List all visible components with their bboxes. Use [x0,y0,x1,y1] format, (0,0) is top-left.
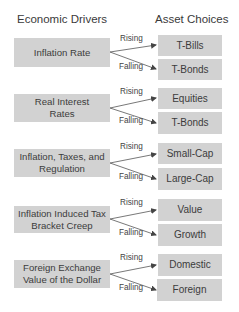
driver-box-tax-bracket-creep: Inflation Induced Tax Bracket Creep [14,206,110,233]
rising-arrow [110,45,156,52]
rising-arrow [110,154,156,163]
falling-label: Falling [119,283,143,292]
rising-arrow [110,265,156,274]
driver-box-inflation-rate: Inflation Rate [14,38,110,67]
asset-box-t-bonds: T-Bonds [158,59,222,80]
asset-box-value: Value [158,199,222,221]
asset-box-foreign: Foreign [157,279,222,301]
driver-label: Inflation, Taxes, and Regulation [17,151,107,175]
driver-label: Inflation Induced Tax Bracket Creep [15,208,109,232]
rising-label: Rising [120,34,143,43]
rising-label: Rising [120,198,143,207]
driver-label: Foreign Exchange Value of the Dollar [18,262,106,286]
asset-box-t-bonds: T-Bonds [158,112,222,134]
falling-label: Falling [119,228,143,237]
rising-label: Rising [120,253,143,262]
driver-box-foreign-exchange: Foreign Exchange Value of the Dollar [14,260,110,288]
asset-box-t-bills: T-Bills [158,35,222,56]
rising-label: Rising [120,142,143,151]
rising-arrow [110,98,156,108]
driver-label: Real Interest Rates [32,96,92,120]
falling-label: Falling [119,62,143,71]
asset-box-large-cap: Large-Cap [158,168,222,190]
asset-box-equities: Equities [158,88,222,109]
falling-label: Falling [119,116,143,125]
rising-arrow [110,210,156,219]
driver-box-real-interest-rates: Real Interest Rates [14,94,110,122]
asset-box-domestic: Domestic [158,254,222,276]
falling-label: Falling [119,172,143,181]
driver-box-inflation-taxes-regulation: Inflation, Taxes, and Regulation [14,149,110,177]
asset-box-small-cap: Small-Cap [158,143,222,164]
asset-box-growth: Growth [158,224,222,246]
rising-label: Rising [120,87,143,96]
